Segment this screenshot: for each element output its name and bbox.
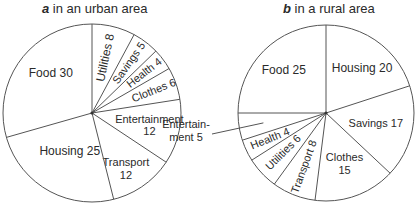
slice-label: Food 25 <box>262 63 306 77</box>
pie-charts: Utilities 8Savings 5Health 4Clothes 6Ent… <box>0 0 420 211</box>
slice-label: Savings 17 <box>349 117 403 129</box>
slice-label: Food 30 <box>29 66 73 80</box>
slice-label: Housing 25 <box>39 144 100 158</box>
slice-label: Entertain-ment 5 <box>162 118 210 143</box>
pie-chart-a: Utilities 8Savings 5Health 4Clothes 6Ent… <box>3 24 184 202</box>
pie-chart-b: Housing 20Savings 17Clothes15Transport 8… <box>162 25 414 201</box>
slice-label: Housing 20 <box>332 61 393 75</box>
